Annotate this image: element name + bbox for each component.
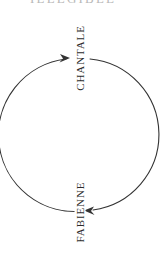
arc-right-chantale-to-fabienne [90,59,159,210]
node-label-fabienne: FABIENNE [75,179,86,246]
node-label-chantale: CHANTALE [75,22,86,94]
arc-left-fabienne-to-chantale [0,59,84,212]
arrowhead-to-fabienne-icon [84,207,95,216]
diagram-canvas: ILLEGIBLE CHANTALE FABIENNE [0,0,160,255]
arrowhead-to-chantale-icon [60,54,71,63]
